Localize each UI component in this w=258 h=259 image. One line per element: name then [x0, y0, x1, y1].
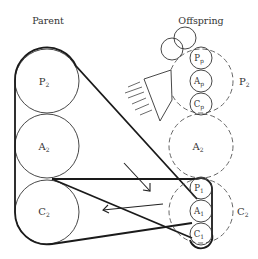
svg-text:A2: A2: [191, 141, 203, 153]
arrow-to-offspring: [124, 163, 150, 191]
offspring-heading: Offspring: [178, 15, 223, 26]
arrows: [103, 163, 163, 213]
extra-circle-left: [161, 38, 183, 60]
offspring-labels: Pp Ap Cp P2 A2 P1 A1 C1 C2: [191, 53, 249, 240]
parent-labels: P2 A2 C2: [37, 76, 49, 218]
svg-text:P2: P2: [239, 76, 250, 88]
svg-text:Pp: Pp: [194, 53, 204, 65]
svg-text:P1: P1: [194, 183, 204, 194]
svg-text:Ap: Ap: [193, 76, 204, 88]
svg-text:P2: P2: [39, 76, 50, 88]
svg-text:A1: A1: [193, 206, 204, 217]
flash-icon: [144, 70, 172, 121]
inheritance-diagram: Parent Offspring: [0, 0, 258, 259]
svg-text:Cp: Cp: [194, 99, 205, 111]
svg-text:C2: C2: [38, 206, 50, 218]
svg-text:C1: C1: [194, 229, 204, 240]
svg-text:A2: A2: [37, 141, 49, 153]
extra-circle-right: [174, 27, 196, 49]
svg-text:C2: C2: [237, 206, 249, 218]
parent-heading: Parent: [32, 15, 64, 26]
